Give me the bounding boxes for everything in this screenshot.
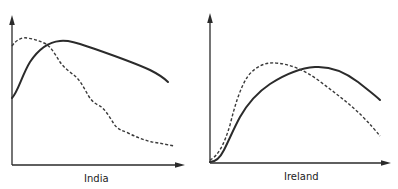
chart-india: India	[9, 15, 185, 184]
y-axis-arrow-icon	[207, 13, 213, 23]
x-axis-arrow-icon	[381, 160, 391, 166]
x-axis-arrow-icon	[175, 162, 185, 168]
chart-ireland: Ireland	[207, 13, 391, 182]
ireland-dashed-curve	[210, 63, 380, 160]
y-axis-arrow-icon	[9, 15, 15, 25]
ireland-solid-curve	[210, 67, 380, 162]
x-axis-label-ireland: Ireland	[284, 171, 319, 182]
x-axis-label-india: India	[84, 173, 109, 184]
india-solid-curve	[12, 41, 168, 98]
comparison-charts: India Ireland	[0, 0, 398, 189]
